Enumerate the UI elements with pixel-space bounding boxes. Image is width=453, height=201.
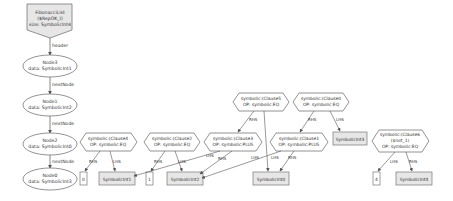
list-node-node2[interactable]: Node2 data: SymbolicInt0: [23, 133, 77, 155]
list-node-node3[interactable]: Node3 data: SymbolicInt1: [23, 55, 77, 77]
node-data: data: SymbolicInt0: [28, 144, 71, 149]
clause-node-clause6[interactable]: symbolic:(Clause6 ($not_1) OP: symbolic:…: [372, 130, 429, 152]
node-name: Node3: [43, 60, 58, 65]
clause-node-clause2[interactable]: symbolic:(Clause2 OP: symbolic:EQ: [144, 133, 200, 151]
edge-label-rhs: RHS: [218, 156, 227, 161]
node-name: Node2: [43, 138, 58, 143]
clause-label: symbolic:(Clause2: [152, 136, 192, 141]
value-text: 1: [148, 177, 151, 182]
clause-op: OP: symbolic:PLUS: [213, 142, 254, 147]
value-text: SymbolicInt0: [257, 177, 286, 182]
clause-label: symbolic:(Clause5: [241, 96, 281, 101]
edge-label-lhs: LHS: [336, 117, 344, 122]
value-text: SymbolicInt4: [400, 177, 429, 182]
value-box-symbolicint1[interactable]: SymbolicInt1: [99, 172, 135, 185]
value-box-symbolicint2[interactable]: SymbolicInt2: [167, 172, 203, 185]
list-node-node1[interactable]: Node1 data: SymbolicInt2: [23, 94, 77, 116]
value-box-symbolicint3[interactable]: SymbolicInt3: [333, 132, 367, 145]
clause-label: symbolic:(Clause1: [279, 136, 319, 141]
value-text: 0: [82, 177, 85, 182]
node-data: data: SymbolicInt3: [28, 179, 71, 184]
edge-label-rhs: RHS: [249, 117, 258, 122]
edge-label-rhs: RHS: [154, 159, 163, 164]
edge-label-nextnode: nextNode: [52, 82, 74, 87]
value-box-symbolicint0[interactable]: SymbolicInt0: [253, 172, 289, 185]
clause-node-clause0[interactable]: symbolic:(Clause0 OP: symbolic:EQ: [293, 93, 349, 111]
value-text: 4: [375, 177, 378, 182]
clause-label: symbolic:(Clause6: [380, 132, 420, 137]
edge-label-rhs: RHS: [308, 117, 317, 122]
value-text: SymbolicInt3: [336, 137, 365, 142]
clause-op: OP: symbolic:EQ: [154, 142, 191, 147]
list-node-node0[interactable]: Node0 data: SymbolicInt3: [23, 168, 77, 190]
clause-op: OP: symbolic:EQ: [243, 102, 280, 107]
clause-node-clause3[interactable]: symbolic:(Clause3 OP: symbolic:PLUS: [204, 133, 262, 151]
edge-label-lhs: LHS: [113, 159, 121, 164]
clause-op: OP: symbolic:PLUS: [279, 142, 320, 147]
clause-label: symbolic:(Clause0: [301, 96, 341, 101]
clause-node-clause4[interactable]: symbolic:(Clause4 OP: symbolic:EQ: [80, 133, 137, 151]
edge-label-nextnode: nextNode: [52, 159, 74, 164]
node-name: Node0: [43, 173, 58, 178]
edge-label-lhs: LHS: [178, 159, 186, 164]
clause-op: OP: symbolic:EQ: [382, 144, 419, 149]
clause-label: symbolic:(Clause3: [213, 136, 253, 141]
clause-label: symbolic:(Clause4: [88, 136, 128, 141]
edge-label-header: header: [52, 43, 68, 48]
clause-node-clause1[interactable]: symbolic:(Clause1 OP: symbolic:PLUS: [270, 133, 328, 151]
value-box-0[interactable]: 0: [80, 172, 87, 185]
node-data: data: SymbolicInt1: [28, 66, 71, 71]
value-text: SymbolicInt1: [103, 177, 132, 182]
edge-label-rhs: RHS: [89, 159, 98, 164]
edge-label-lhs: LHS: [206, 153, 214, 158]
edge-label-lhs: LHS: [390, 159, 398, 164]
edge-label-lhs: LHS: [251, 155, 259, 160]
clause-node-clause5[interactable]: symbolic:(Clause5 OP: symbolic:EQ: [233, 93, 289, 111]
root-title: FibonacciList: [35, 10, 65, 15]
clause-op: OP: symbolic:EQ: [303, 102, 340, 107]
clause-op: OP: symbolic:EQ: [90, 142, 127, 147]
edge-label-rhs: RHS: [288, 155, 297, 160]
node-name: Node1: [43, 99, 58, 104]
root-size: size: SymbolicInt4: [29, 22, 71, 27]
root-node-fibonaccilist[interactable]: FibonacciList ($RepOK_I) size: SymbolicI…: [27, 4, 72, 38]
diagram-canvas: FibonacciList ($RepOK_I) size: SymbolicI…: [0, 0, 453, 201]
node-data: data: SymbolicInt2: [28, 105, 71, 110]
value-box-1[interactable]: 1: [146, 172, 153, 185]
edge-label-rhs: RHS: [409, 159, 418, 164]
value-box-4[interactable]: 4: [373, 172, 380, 185]
edge-label-nextnode: nextNode: [52, 121, 74, 126]
value-text: SymbolicInt2: [171, 177, 200, 182]
edge-label-lhs: LHS: [271, 155, 279, 160]
value-box-symbolicint4[interactable]: SymbolicInt4: [396, 172, 432, 185]
